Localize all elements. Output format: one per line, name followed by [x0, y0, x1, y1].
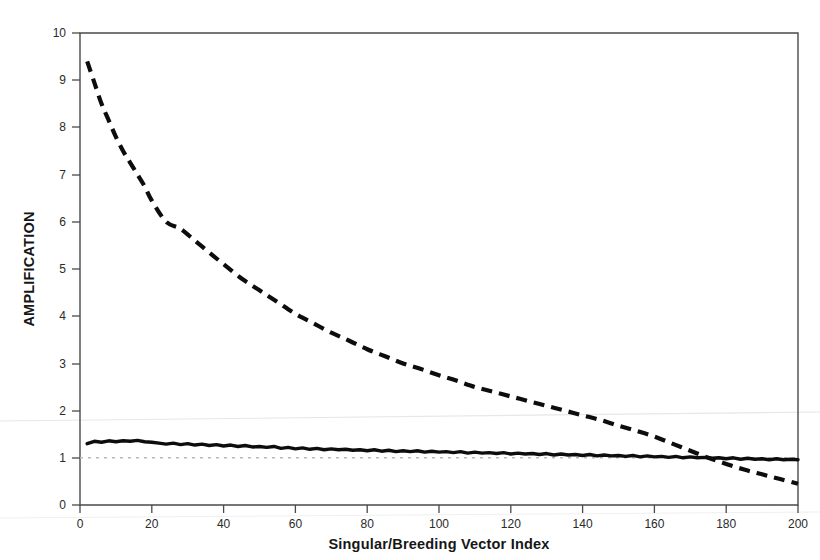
y-tick-label-7: 7 [59, 168, 66, 182]
x-tick-label-180: 180 [716, 517, 736, 531]
x-tick-label-0: 0 [77, 517, 84, 531]
y-tick-label-5: 5 [59, 262, 66, 276]
chart-background [0, 0, 820, 560]
y-tick-label-10: 10 [53, 26, 67, 40]
x-tick-label-160: 160 [644, 517, 664, 531]
y-tick-label-2: 2 [59, 404, 66, 418]
chart-svg: 10 9 8 7 6 5 4 3 2 1 0 0 [0, 0, 820, 560]
x-tick-label-80: 80 [361, 517, 375, 531]
y-tick-label-8: 8 [59, 120, 66, 134]
y-tick-label-6: 6 [59, 215, 66, 229]
x-tick-label-60: 60 [289, 517, 303, 531]
amplification-chart-figure: 10 9 8 7 6 5 4 3 2 1 0 0 [0, 0, 820, 560]
y-tick-label-3: 3 [59, 357, 66, 371]
y-tick-label-4: 4 [59, 309, 66, 323]
x-tick-label-100: 100 [429, 517, 449, 531]
x-axis-title: Singular/Breeding Vector Index [328, 536, 549, 552]
x-tick-label-20: 20 [145, 517, 159, 531]
y-tick-label-0: 0 [59, 498, 66, 512]
y-tick-label-9: 9 [59, 73, 66, 87]
y-tick-label-1: 1 [59, 451, 66, 465]
x-tick-label-200: 200 [788, 517, 808, 531]
x-tick-label-120: 120 [501, 517, 521, 531]
x-tick-label-40: 40 [217, 517, 231, 531]
x-tick-label-140: 140 [573, 517, 593, 531]
y-axis-title: AMPLIFICATION [21, 211, 37, 326]
